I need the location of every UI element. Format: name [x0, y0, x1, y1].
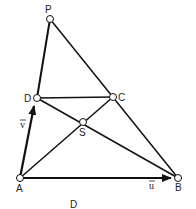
label-B: B [175, 182, 182, 193]
geometry-diagram: P D C S A B v u D [0, 0, 196, 209]
label-P: P [45, 4, 52, 15]
segment-DB [37, 98, 178, 178]
label-vector-u: u [149, 180, 154, 191]
label-vector-v: v [20, 119, 25, 130]
label-S: S [79, 127, 86, 138]
point-C [110, 94, 117, 101]
label-D: D [24, 93, 31, 104]
point-D [34, 95, 41, 102]
label-C: C [118, 92, 125, 103]
point-S [80, 119, 87, 126]
point-P [47, 16, 54, 23]
point-A [17, 175, 24, 182]
figure-caption: D [70, 199, 77, 209]
label-A: A [16, 183, 23, 194]
segment-PD [37, 19, 50, 98]
segment-DC [37, 97, 113, 98]
point-B [175, 175, 182, 182]
